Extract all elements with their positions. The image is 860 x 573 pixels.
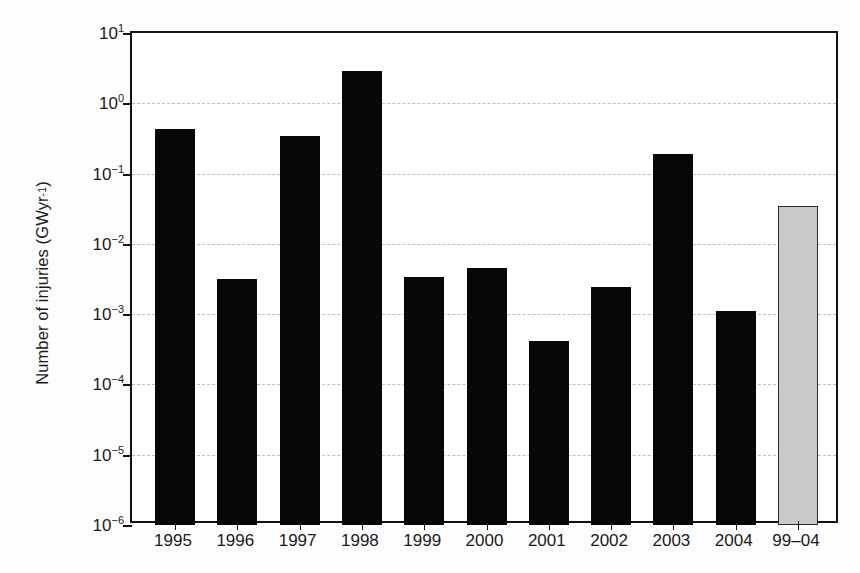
bar-1995 [155, 129, 195, 525]
y-tick-mark [123, 244, 132, 246]
bar-2003 [653, 154, 693, 525]
y-tick-label: 10−2 [93, 233, 124, 255]
x-tick-label: 2001 [516, 531, 578, 551]
y-tick-mark [123, 455, 132, 457]
x-tick-label: 2004 [703, 531, 765, 551]
x-tick-mark [798, 521, 799, 530]
gridline [132, 244, 836, 245]
bar-1997 [280, 136, 320, 525]
y-tick-label: 10−6 [93, 514, 124, 536]
y-axis-title-exponent: -1 [36, 187, 48, 197]
y-tick-label: 10−5 [93, 444, 124, 466]
y-axis-title: Number of injuries (GWyr-1) [22, 37, 62, 529]
y-tick-mark [123, 33, 132, 35]
x-tick-mark [736, 521, 737, 530]
x-tick-label: 1997 [267, 531, 329, 551]
bar-1996 [217, 279, 257, 525]
y-tick-mark [123, 314, 132, 316]
y-tick-label: 10−3 [93, 303, 124, 325]
x-tick-label: 2002 [578, 531, 640, 551]
bar-2004 [716, 311, 756, 525]
x-tick-mark [424, 521, 425, 530]
x-tick-label: 2000 [454, 531, 516, 551]
x-tick-mark [362, 521, 363, 530]
x-tick-label: 1999 [391, 531, 453, 551]
bar-2001 [529, 341, 569, 525]
bar-2002 [591, 287, 631, 525]
y-tick-exponent: −5 [111, 444, 124, 456]
x-tick-mark [300, 521, 301, 530]
y-tick-mark [123, 103, 132, 105]
y-axis-title-close: ) [33, 181, 52, 187]
x-tick-label: 2003 [640, 531, 702, 551]
y-tick-mantissa: 10 [99, 24, 118, 43]
x-tick-mark [611, 521, 612, 530]
y-tick-mantissa: 10 [99, 94, 118, 113]
bar-99-04 [778, 206, 818, 525]
y-tick-exponent: −1 [111, 163, 124, 175]
y-tick-exponent: −4 [111, 374, 124, 386]
y-tick-mantissa: 10 [93, 375, 112, 394]
chart-figure: Number of injuries (GWyr-1) 10110010−110… [0, 0, 860, 573]
y-tick-mantissa: 10 [93, 305, 112, 324]
y-tick-exponent: 0 [118, 92, 124, 104]
y-axis-title-text: Number of injuries (GWyr [33, 196, 52, 384]
bar-1998 [342, 71, 382, 525]
y-tick-exponent: −2 [111, 233, 124, 245]
y-tick-exponent: −3 [111, 303, 124, 315]
plot-area: 10110010−110−210−310−410−510−6 [130, 31, 838, 523]
y-tick-mantissa: 10 [93, 235, 112, 254]
y-tick-label: 10−1 [93, 163, 124, 185]
x-tick-mark [487, 521, 488, 530]
x-tick-mark [175, 521, 176, 530]
x-tick-label: 1995 [142, 531, 204, 551]
x-tick-mark [237, 521, 238, 530]
x-tick-label: 1996 [204, 531, 266, 551]
y-tick-mantissa: 10 [93, 446, 112, 465]
y-tick-mark [123, 525, 132, 527]
gridline [132, 174, 836, 175]
x-tick-mark [673, 521, 674, 530]
y-tick-label: 100 [99, 92, 124, 114]
x-tick-label: 99–04 [765, 531, 827, 551]
y-tick-mantissa: 10 [93, 164, 112, 183]
bar-1999 [404, 277, 444, 525]
y-tick-mantissa: 10 [93, 516, 112, 535]
y-tick-label: 101 [99, 22, 124, 44]
y-tick-mark [123, 174, 132, 176]
gridline [132, 103, 836, 104]
y-tick-label: 10−4 [93, 374, 124, 396]
y-tick-mark [123, 384, 132, 386]
x-tick-label: 1998 [329, 531, 391, 551]
x-tick-mark [549, 521, 550, 530]
y-tick-exponent: −6 [111, 514, 124, 526]
bar-2000 [467, 268, 507, 525]
y-tick-exponent: 1 [118, 22, 124, 34]
